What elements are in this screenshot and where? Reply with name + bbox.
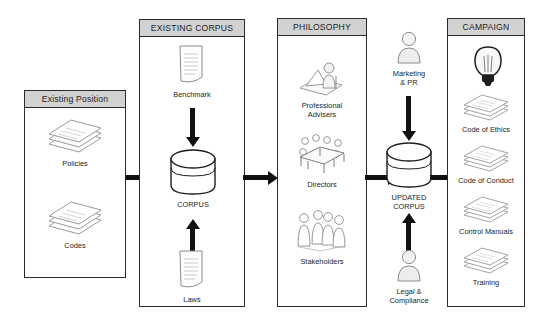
- node-laws[interactable]: Laws: [160, 248, 224, 304]
- node-label-corpus: CORPUS: [177, 200, 209, 209]
- arrow-updated-corpus-to-campaign: [430, 175, 448, 180]
- database-cylinder-icon: [381, 140, 437, 190]
- arrow-marketing-down: [406, 96, 411, 132]
- node-stakeholders[interactable]: Stakeholders: [285, 208, 359, 266]
- node-label-policies: Policies: [62, 159, 87, 168]
- paper-stack-icon: [460, 194, 512, 224]
- boardroom-table-icon: [294, 133, 350, 177]
- node-label-marketing-and-pr: Marketing & PR: [393, 69, 425, 88]
- node-label-code-of-ethics: Code of Ethics: [462, 125, 510, 134]
- paper-stack-icon: [43, 196, 107, 238]
- node-codes[interactable]: Codes: [34, 196, 116, 250]
- paper-stack-icon: [43, 114, 107, 156]
- node-label-code-of-conduct: Code of Conduct: [458, 176, 513, 185]
- person-icon: [394, 30, 424, 66]
- node-marketing-and-pr[interactable]: Marketing & PR: [376, 30, 442, 88]
- paper-stack-icon: [460, 92, 512, 122]
- database-cylinder-icon: [165, 147, 221, 197]
- node-label-codes: Codes: [64, 241, 85, 250]
- person-icon: [394, 248, 424, 284]
- node-code-of-conduct[interactable]: Code of Conduct: [455, 143, 517, 185]
- panel-title-existing-position: Existing Position: [25, 91, 125, 108]
- panel-title-campaign: CAMPAIGN: [448, 19, 524, 36]
- node-label-control-manuals: Control Manuals: [459, 227, 513, 236]
- node-training[interactable]: Training: [455, 245, 517, 287]
- advisers-icon: [296, 58, 348, 98]
- node-legal-and-compliance[interactable]: Legal & Compliance: [376, 248, 442, 306]
- node-label-professional-advisers: Professional Advisers: [302, 101, 343, 120]
- node-professional-advisers[interactable]: Professional Advisers: [285, 58, 359, 120]
- node-label-benchmark: Benchmark: [173, 90, 210, 99]
- paper-stack-icon: [460, 245, 512, 275]
- document-icon: [175, 43, 209, 87]
- lightbulb-icon: [468, 44, 508, 90]
- node-label-directors: Directors: [307, 180, 337, 189]
- panel-title-existing-corpus: EXISTING CORPUS: [140, 20, 244, 37]
- node-label-training: Training: [473, 278, 499, 287]
- diagram-canvas: Existing Position Policies: [0, 0, 539, 323]
- node-control-manuals[interactable]: Control Manuals: [455, 194, 517, 236]
- people-group-icon: [294, 208, 350, 254]
- paper-stack-icon: [460, 143, 512, 173]
- arrow-corpus-to-philosophy: [243, 175, 269, 180]
- node-policies[interactable]: Policies: [34, 114, 116, 168]
- node-directors[interactable]: Directors: [285, 133, 359, 189]
- node-benchmark[interactable]: Benchmark: [160, 43, 224, 99]
- node-lightbulb[interactable]: [466, 44, 510, 90]
- arrow-benchmark-down: [190, 108, 195, 138]
- node-label-legal-and-compliance: Legal & Compliance: [389, 287, 428, 306]
- panel-title-philosophy: PHILOSOPHY: [278, 19, 366, 36]
- node-corpus[interactable]: CORPUS: [160, 147, 226, 209]
- node-label-laws: Laws: [183, 295, 200, 304]
- node-label-stakeholders: Stakeholders: [300, 257, 343, 266]
- document-icon: [175, 248, 209, 292]
- node-code-of-ethics[interactable]: Code of Ethics: [455, 92, 517, 134]
- node-label-updated-corpus: UPDATED CORPUS: [392, 193, 427, 212]
